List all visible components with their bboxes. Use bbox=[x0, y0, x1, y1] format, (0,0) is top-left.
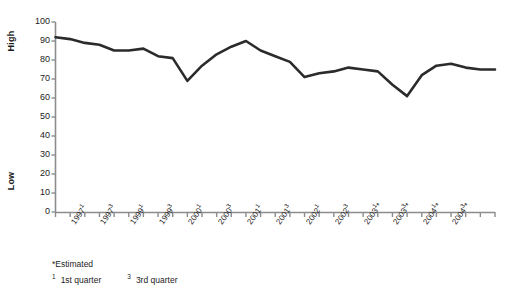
y-axis-tick-label: 30 bbox=[24, 150, 50, 159]
y-axis-tick-label: 50 bbox=[24, 112, 50, 121]
footnote-quarters: 11st quarter33rd quarter bbox=[52, 271, 177, 286]
y-axis-tick-label: 20 bbox=[24, 169, 50, 178]
chart-container: High Low 0102030405060708090100 19971199… bbox=[0, 0, 510, 289]
y-axis-tick-label: 0 bbox=[24, 207, 50, 216]
y-axis-label-low: Low bbox=[6, 166, 16, 196]
y-axis-tick-label: 80 bbox=[24, 55, 50, 64]
footnote-q3-marker: 3 bbox=[127, 273, 131, 280]
footnote-q1-text: 1st quarter bbox=[61, 275, 102, 285]
y-axis-tick-labels: 0102030405060708090100 bbox=[22, 0, 50, 289]
footnote-q3-text: 3rd quarter bbox=[136, 275, 178, 285]
footnote-estimated: *Estimated bbox=[52, 258, 177, 270]
y-axis-tick-label: 90 bbox=[24, 36, 50, 45]
chart-plot-area bbox=[0, 0, 510, 289]
y-axis bbox=[52, 22, 56, 212]
y-axis-label-high: High bbox=[6, 24, 16, 58]
y-axis-tick-label: 40 bbox=[24, 131, 50, 140]
y-axis-tick-label: 60 bbox=[24, 93, 50, 102]
y-axis-tick-label: 10 bbox=[24, 188, 50, 197]
y-axis-tick-label: 100 bbox=[24, 17, 50, 26]
chart-footnotes: *Estimated 11st quarter33rd quarter bbox=[52, 258, 177, 286]
data-series-line bbox=[56, 37, 496, 96]
footnote-q1-marker: 1 bbox=[52, 273, 56, 280]
y-axis-tick-label: 70 bbox=[24, 74, 50, 83]
